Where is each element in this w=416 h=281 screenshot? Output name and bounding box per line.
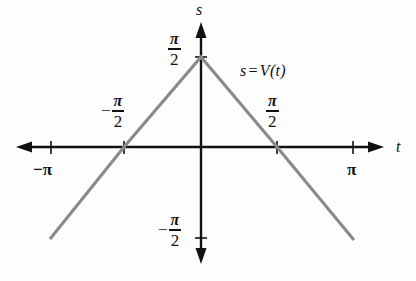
fraction-pi-over-2: π 2 <box>266 93 279 130</box>
x-axis-right-arrow <box>368 142 384 153</box>
minus-sign: − <box>101 102 111 119</box>
x-axis-left-arrow <box>16 142 32 153</box>
equals-sign: = <box>247 62 260 79</box>
pi-glyph: π <box>347 160 356 179</box>
graph-figure: s t π 2 − π 2 − π 2 <box>0 0 416 281</box>
equation-rhs: V(t) <box>260 62 286 79</box>
pi-glyph: π <box>43 160 52 179</box>
plot-canvas <box>0 0 416 281</box>
minus-sign: − <box>33 160 43 179</box>
x-tick-label-pi-over-2: π 2 <box>266 93 279 130</box>
x-tick-label-pi: π <box>347 161 356 178</box>
y-tick-label-pi-over-2: π 2 <box>168 31 181 68</box>
curve-equation-label: s=V(t) <box>240 63 286 79</box>
y-axis-bottom-arrow <box>196 248 207 264</box>
fraction-pi-over-2: π 2 <box>112 93 125 130</box>
equation-lhs: s <box>240 62 247 79</box>
y-axis-label: s <box>196 2 202 18</box>
fraction-pi-over-2: π 2 <box>169 212 182 249</box>
minus-sign: − <box>158 221 168 238</box>
y-axis-top-arrow <box>196 22 207 38</box>
fraction-pi-over-2: π 2 <box>168 31 181 68</box>
x-tick-label-neg-pi-over-2: − π 2 <box>101 93 124 130</box>
x-axis-label: t <box>396 139 400 155</box>
x-tick-label-neg-pi: −π <box>33 161 52 178</box>
y-tick-label-neg-pi-over-2: − π 2 <box>158 212 181 249</box>
